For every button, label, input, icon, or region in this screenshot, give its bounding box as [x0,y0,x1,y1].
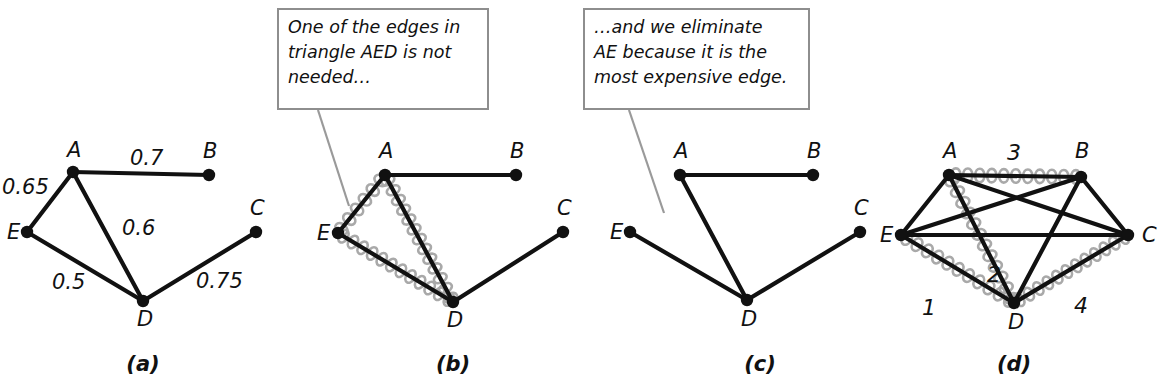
node-D[interactable] [137,295,149,307]
node-D[interactable] [741,294,753,306]
node-A[interactable] [67,166,79,178]
edge-DC [453,232,563,302]
node-label-C: C [1142,223,1157,247]
node-label-B: B [203,139,217,163]
node-label-A: A [672,139,688,163]
node-label-D: D [447,308,463,332]
node-A[interactable] [379,169,391,181]
node-E[interactable] [624,226,636,238]
node-label-D: D [1008,310,1024,334]
node-label-A: A [377,139,393,163]
panel-caption-c: (c) [744,352,776,376]
node-B[interactable] [807,169,819,181]
node-A[interactable] [674,169,686,181]
edge-AE [338,175,385,233]
panel-caption-a: (a) [126,352,159,376]
edge-order-label-AD: 2 [987,262,1001,287]
node-C[interactable] [1122,229,1134,241]
node-D[interactable] [1008,297,1020,309]
node-label-E: E [880,223,894,247]
node-label-D: D [741,307,757,331]
node-label-A: A [941,139,957,163]
figure-canvas: 0.70.650.60.50.75ABCDEABCDEABCDE1234ABCD… [0,0,1159,383]
node-label-C: C [250,196,265,220]
callout-box-ae: …and we eliminate AE because it is the m… [583,8,810,110]
edge-order-label-DC: 4 [1074,293,1088,318]
node-label-B: B [510,139,524,163]
node-label-E: E [7,220,21,244]
node-E[interactable] [332,227,344,239]
graph-figure-svg: 0.70.650.60.50.75ABCDEABCDEABCDE1234ABCD… [0,0,1159,383]
edge-weight-AD: 0.6 [122,216,155,240]
edge-weight-AB: 0.7 [130,146,164,170]
node-label-B: B [807,139,821,163]
callout-leader-line-1 [629,110,664,213]
highlight-layer [335,168,1129,306]
node-label-C: C [854,196,869,220]
callout-text: One of the edges in triangle AED is not … [288,15,479,90]
edge-DC [747,232,860,300]
node-E[interactable] [21,226,33,238]
node-D[interactable] [447,296,459,308]
node-label-B: B [1075,139,1089,163]
node-C[interactable] [250,226,262,238]
node-label-C: C [557,196,572,220]
edge-weight-ED: 0.5 [52,270,85,294]
callout-text: …and we eliminate AE because it is the m… [594,15,800,90]
callout-leader-line-0 [318,110,349,206]
node-C[interactable] [854,226,866,238]
edge-AB [949,175,1081,177]
edge-AB [73,172,209,175]
node-label-A: A [65,138,81,162]
node-label-E: E [317,221,331,245]
node-label-E: E [610,220,624,244]
node-layer [21,166,1134,309]
node-E[interactable] [895,229,907,241]
panel-caption-d: (d) [997,352,1031,376]
node-B[interactable] [1075,171,1087,183]
edge-order-label-AB: 3 [1007,140,1021,165]
edge-weight-AE: 0.65 [2,175,49,199]
edge-weight-DC: 0.75 [196,269,243,293]
callout-box-aed: One of the edges in triangle AED is not … [277,8,489,110]
node-label-D: D [137,307,153,331]
node-A[interactable] [943,169,955,181]
panel-caption-b: (b) [436,352,470,376]
node-B[interactable] [203,169,215,181]
node-C[interactable] [557,226,569,238]
node-B[interactable] [510,169,522,181]
edge-order-label-ED: 1 [922,295,936,320]
